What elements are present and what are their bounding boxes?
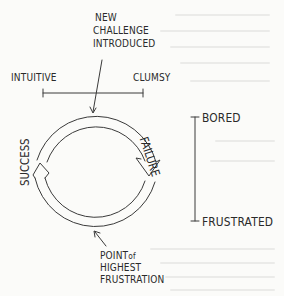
success-arrowhead-icon (33, 163, 49, 178)
frustrated-label: FRUSTRATED (202, 215, 273, 228)
challenge-label: CHALLENGE (93, 25, 149, 36)
introduced-label: INTRODUCED (93, 38, 155, 49)
frustration-label: FRUSTRATION (100, 274, 164, 285)
highest-label: HIGHEST (100, 262, 141, 273)
success-label: SUCCESS (18, 138, 32, 186)
new-label: NEW (95, 12, 117, 23)
clumsy-label: CLUMSY (133, 72, 170, 83)
lower-outer-arc (35, 178, 155, 227)
intuitive-label: INTUITIVE (11, 72, 57, 83)
of-word: of (128, 251, 135, 261)
lower-inner-arc (45, 178, 145, 217)
upper-inner-arc (47, 127, 145, 162)
highest-frustration-pointer (95, 232, 106, 246)
bored-label: BORED (202, 111, 241, 124)
diagram-page: NEW CHALLENGE INTRODUCED INTUITIVE CLUMS… (0, 0, 284, 296)
new-challenge-pointer (93, 60, 102, 112)
